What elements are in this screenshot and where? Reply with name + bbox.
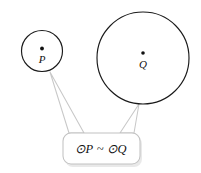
circle-p-label: P xyxy=(38,53,46,65)
circle-p xyxy=(22,31,63,72)
callout-formula-text: ⊙P ~ ⊙Q xyxy=(75,142,127,156)
circle-q-label: Q xyxy=(139,58,147,70)
similar-circles-figure: ⊙P ~ ⊙Q P Q xyxy=(0,0,201,173)
callout-tail-to-circle-q xyxy=(120,104,139,133)
callout-tail-to-circle-p xyxy=(50,72,84,133)
figure-container: ⊙P ~ ⊙Q P Q xyxy=(0,0,201,173)
circle-p-center-dot-icon xyxy=(40,47,44,51)
circle-q-center-dot-icon xyxy=(141,51,145,55)
